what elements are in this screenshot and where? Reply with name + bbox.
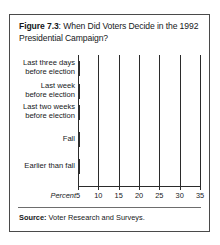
category-label-line: Earlier than fall	[11, 162, 75, 171]
tick-15	[119, 186, 120, 190]
tick-label-30: 30	[172, 191, 188, 200]
figure-title: Figure 7.3: When Did Voters Decide in th…	[19, 21, 202, 44]
gridline-35	[200, 55, 201, 186]
tick-label-10: 10	[90, 191, 106, 200]
category-label-line: Fall	[11, 135, 75, 144]
bar-row	[78, 61, 123, 76]
tick-25	[159, 186, 160, 190]
bar-row	[78, 105, 131, 120]
bar	[78, 105, 80, 120]
category-label-line: before election	[11, 68, 75, 77]
bar-row	[78, 132, 155, 147]
category-label: Last two weeksbefore election	[11, 103, 75, 120]
x-axis-title: Percent	[40, 191, 76, 200]
source-divider	[18, 207, 201, 208]
category-label: Last weekbefore election	[11, 82, 75, 99]
tick-5	[78, 186, 79, 190]
source-label: Source:	[19, 213, 47, 222]
figure-frame: Figure 7.3: When Did Voters Decide in th…	[9, 14, 210, 232]
figure-page: Figure 7.3: When Did Voters Decide in th…	[0, 0, 220, 245]
bar	[78, 84, 80, 99]
category-label: Earlier than fall	[11, 162, 75, 171]
bar	[78, 132, 80, 147]
bar	[78, 159, 80, 174]
figure-label: Figure 7.3	[19, 21, 59, 31]
source-text: Voter Research and Surveys.	[47, 213, 145, 222]
tick-label-15: 15	[111, 191, 127, 200]
source-note: Source: Voter Research and Surveys.	[19, 213, 201, 223]
tick-10	[98, 186, 99, 190]
category-label-line: before election	[11, 91, 75, 100]
tick-label-20: 20	[131, 191, 147, 200]
tick-label-25: 25	[151, 191, 167, 200]
bar-row	[78, 84, 90, 99]
tick-30	[180, 186, 181, 190]
bar	[78, 61, 80, 76]
category-label: Last three daysbefore election	[11, 59, 75, 76]
tick-35	[200, 186, 201, 190]
category-label-line: before election	[11, 112, 75, 121]
bar-chart: Last three daysbefore electionLast weekb…	[10, 51, 209, 201]
category-label: Fall	[11, 135, 75, 144]
bar-row	[78, 159, 192, 174]
tick-20	[139, 186, 140, 190]
tick-label-35: 35	[192, 191, 208, 200]
